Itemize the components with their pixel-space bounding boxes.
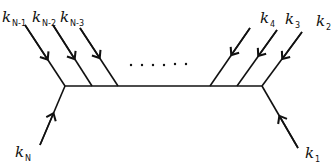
arrow-kN-1-icon bbox=[25, 25, 47, 59]
arrow-kN-3-icon bbox=[80, 28, 99, 57]
label-kN-3: kN-3 bbox=[60, 10, 84, 28]
label-k4: k4 bbox=[260, 11, 275, 29]
label-k3: k3 bbox=[285, 12, 300, 30]
ellipsis-dots bbox=[130, 63, 187, 66]
label-kN-1: kN-1 bbox=[2, 10, 26, 28]
label-kN-2: kN-2 bbox=[32, 10, 56, 28]
arrow-k3-icon bbox=[259, 30, 277, 55]
arrow-kN-icon bbox=[40, 115, 53, 146]
label-k1: k1 bbox=[305, 146, 320, 164]
arrow-kN-2-icon bbox=[53, 25, 74, 58]
arrow-k4-icon bbox=[232, 28, 250, 54]
label-kN: kN bbox=[15, 145, 31, 163]
arrow-k2-icon bbox=[283, 32, 302, 58]
arrow-k1-icon bbox=[280, 117, 298, 148]
label-k2: k2 bbox=[316, 14, 331, 32]
